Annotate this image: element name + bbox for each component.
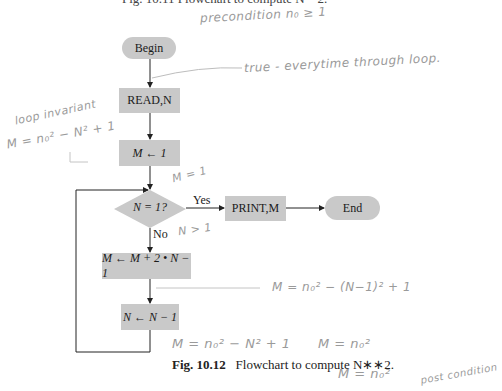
decision-text: N = 1?	[114, 200, 186, 215]
annotation-after-loop-formula: M = n₀² − N² + 1	[172, 336, 291, 351]
pencil-stroke-invariant	[70, 152, 88, 162]
begin-terminal: Begin	[122, 37, 176, 59]
update-m-process-box: M ← M + 2 • N − 1	[102, 253, 191, 279]
figure-number: Fig. 10.12	[172, 357, 226, 372]
print-process-box: PRINT,M	[225, 196, 286, 221]
yes-label: Yes	[193, 193, 210, 208]
end-terminal: End	[325, 196, 380, 220]
no-label: No	[153, 227, 168, 242]
init-process-box: M ← 1	[119, 140, 180, 166]
annotation-m-equals-n0-squared: M = n₀²	[318, 336, 371, 351]
pencil-stroke-true	[152, 68, 242, 78]
update-n-process-box: N ← N − 1	[121, 304, 179, 330]
annotation-after-update-m: M = n₀² − (N−1)² + 1	[272, 280, 411, 294]
annotation-postcondition-formula: M = n₀²	[338, 366, 391, 381]
read-process-box: READ,N	[119, 88, 180, 113]
